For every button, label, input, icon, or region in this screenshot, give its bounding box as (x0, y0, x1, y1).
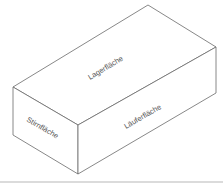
brick-diagram: Lagerfläche Stirnfläche Läuferfläche (0, 0, 223, 187)
